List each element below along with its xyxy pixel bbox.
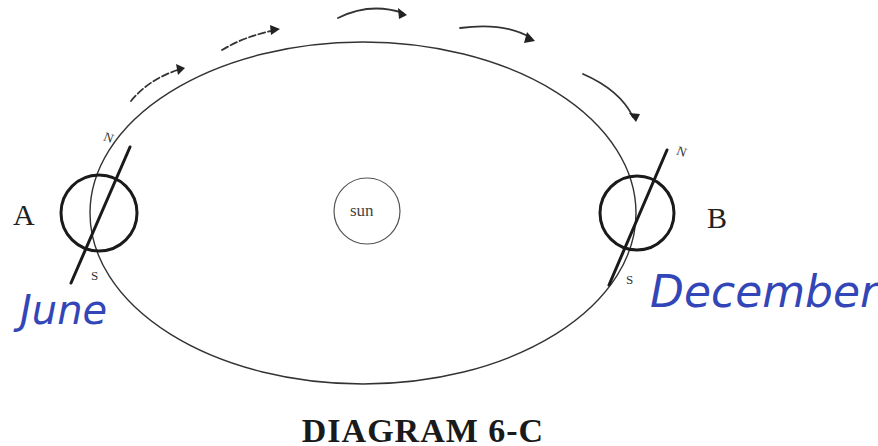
earth-b-circle xyxy=(600,176,674,250)
position-b-label: B xyxy=(707,203,727,233)
december-annotation: December xyxy=(650,270,878,314)
sun-label: sun xyxy=(350,202,374,219)
arrow-5-icon xyxy=(583,74,633,117)
arrow-1-icon xyxy=(131,69,181,101)
arrow-heads xyxy=(176,8,640,122)
position-a-south-label: S xyxy=(91,269,98,282)
june-annotation: June xyxy=(20,290,107,330)
arrow-4-icon xyxy=(460,26,531,38)
earth-position-a xyxy=(61,147,137,283)
diagram-title: DIAGRAM 6-C xyxy=(0,414,846,446)
earth-position-b xyxy=(600,150,674,285)
arrow-3-icon xyxy=(338,9,403,18)
earth-a-circle xyxy=(61,175,137,251)
position-b-south-label: S xyxy=(626,273,633,286)
earth-b-axis xyxy=(609,150,667,285)
arrow-2-icon xyxy=(222,30,276,50)
position-a-label: A xyxy=(13,200,35,230)
orbit-direction-arrows xyxy=(131,9,633,117)
